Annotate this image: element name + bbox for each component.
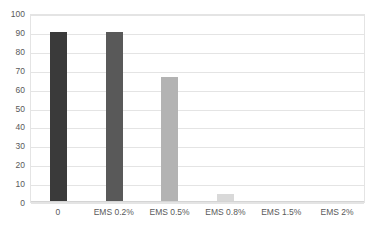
y-axis-tick-label: 70 bbox=[16, 66, 25, 75]
bar-chart: 1009080706050403020100 0EMS 0.2%EMS 0.5%… bbox=[0, 0, 384, 239]
axis-baseline bbox=[31, 201, 364, 202]
x-axis-tick-label: EMS 0.5% bbox=[142, 207, 198, 217]
y-axis-tick-label: 30 bbox=[16, 142, 25, 151]
x-axis-tick-label: EMS 0.8% bbox=[197, 207, 253, 217]
bar-slot bbox=[31, 15, 87, 202]
bar[interactable] bbox=[106, 32, 123, 202]
y-axis-tick-label: 40 bbox=[16, 123, 25, 132]
x-axis-tick-label: EMS 1.5% bbox=[253, 207, 309, 217]
gridline bbox=[31, 203, 364, 204]
y-axis-tick-label: 60 bbox=[16, 85, 25, 94]
y-axis-tick-label: 20 bbox=[16, 161, 25, 170]
y-axis-tick-label: 90 bbox=[16, 29, 25, 38]
x-axis-tick-label: EMS 2% bbox=[309, 207, 365, 217]
y-axis-tick-label: 0 bbox=[20, 199, 25, 208]
y-axis: 1009080706050403020100 bbox=[0, 0, 28, 239]
bar[interactable] bbox=[50, 32, 67, 202]
x-axis-tick-label: 0 bbox=[30, 207, 86, 217]
plot-area bbox=[30, 14, 365, 203]
y-axis-tick-label: 100 bbox=[11, 10, 25, 19]
bar-series bbox=[31, 15, 364, 202]
x-axis: 0EMS 0.2%EMS 0.5%EMS 0.8%EMS 1.5%EMS 2% bbox=[30, 207, 365, 217]
bar-slot bbox=[142, 15, 198, 202]
bar-slot bbox=[253, 15, 309, 202]
bar-slot bbox=[198, 15, 254, 202]
bar-slot bbox=[309, 15, 365, 202]
bar-slot bbox=[87, 15, 143, 202]
y-axis-tick-label: 80 bbox=[16, 48, 25, 57]
y-axis-tick-label: 50 bbox=[16, 104, 25, 113]
y-axis-tick-label: 10 bbox=[16, 180, 25, 189]
bar[interactable] bbox=[161, 77, 178, 202]
x-axis-tick-label: EMS 0.2% bbox=[86, 207, 142, 217]
